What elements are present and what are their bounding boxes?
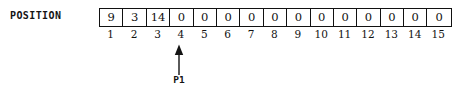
array-cell: 0 <box>357 9 380 26</box>
array-cell: 0 <box>287 9 310 26</box>
array-index-row: 1 2 3 4 5 6 7 8 9 10 11 12 13 14 15 <box>99 28 450 40</box>
array-index-label: 1 <box>99 28 122 40</box>
array-index-label: 13 <box>380 28 403 40</box>
array-cell: 0 <box>404 9 427 26</box>
array-cells-row: 9 3 14 0 0 0 0 0 0 0 0 0 0 0 0 <box>99 8 452 27</box>
array-cell: 0 <box>427 9 450 26</box>
array-index-label: 2 <box>122 28 145 40</box>
array-cell: 9 <box>100 9 123 26</box>
array-index-label: 7 <box>239 28 262 40</box>
array-cell: 0 <box>240 9 263 26</box>
array-index-label: 3 <box>146 28 169 40</box>
array-index-label: 4 <box>169 28 192 40</box>
array-label: POSITION <box>10 10 61 22</box>
array-cell: 3 <box>123 9 146 26</box>
pointer-label: P1 <box>168 74 190 86</box>
pointer-annotation: P1 <box>168 44 190 90</box>
array-index-label: 15 <box>426 28 449 40</box>
array-index-label: 10 <box>310 28 333 40</box>
array-index-label: 14 <box>403 28 426 40</box>
array-cell: 0 <box>381 9 404 26</box>
array-cell: 14 <box>147 9 170 26</box>
array-index-label: 6 <box>216 28 239 40</box>
array-index-label: 11 <box>333 28 356 40</box>
up-arrow-icon <box>168 44 190 76</box>
array-index-label: 9 <box>286 28 309 40</box>
array-cell: 0 <box>170 9 193 26</box>
array-cell: 0 <box>311 9 334 26</box>
position-array-figure: POSITION 9 3 14 0 0 0 0 0 0 0 0 0 0 0 0 … <box>0 0 461 95</box>
array-index-label: 8 <box>263 28 286 40</box>
array-index-label: 12 <box>356 28 379 40</box>
array-index-label: 5 <box>193 28 216 40</box>
array-cell: 0 <box>334 9 357 26</box>
array-cell: 0 <box>217 9 240 26</box>
array-cell: 0 <box>194 9 217 26</box>
array-cell: 0 <box>264 9 287 26</box>
